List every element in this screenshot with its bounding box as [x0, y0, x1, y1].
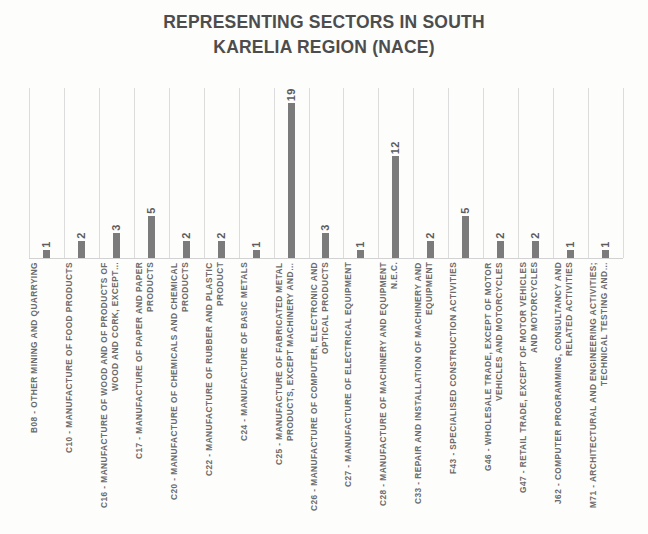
x-axis-label: J62 - COMPUTER PROGRAMMING, CONSULTANCY … [553, 262, 588, 512]
bar-group: 5 [134, 88, 169, 258]
bar-group: 2 [169, 88, 204, 258]
bar[interactable] [357, 250, 364, 259]
bar[interactable] [183, 241, 190, 258]
bar-group: 5 [448, 88, 483, 258]
x-axis-label: G46 - WHOLESALE TRADE, EXCEPT OF MOTOR V… [483, 262, 518, 512]
bar[interactable] [148, 216, 155, 259]
bar[interactable] [497, 241, 504, 258]
bar[interactable] [602, 250, 609, 259]
bar-value-label: 3 [320, 224, 331, 231]
bar[interactable] [392, 156, 399, 258]
bar-value-label: 2 [216, 232, 227, 239]
x-axis-label: C16 - MANUFACTURE OF WOOD AND OF PRODUCT… [99, 262, 134, 512]
bar[interactable] [427, 241, 434, 258]
bar-value-label: 2 [76, 232, 87, 239]
x-axis-label: C22 - MANUFACTURE OF RUBBER AND PLASTIC … [204, 262, 239, 512]
plot-area: 1235221193112252211 [29, 88, 623, 258]
x-axis-label: G47 - RETAIL TRADE, EXCEPT OF MOTOR VEHI… [518, 262, 553, 512]
x-axis-label: F43 - SPECIALISED CONSTRUCTION ACTIVITIE… [448, 262, 483, 512]
bar-group: 1 [239, 88, 274, 258]
bar-group: 2 [413, 88, 448, 258]
x-axis-label: C33 - REPAIR AND INSTALLATION OF MACHINE… [413, 262, 448, 512]
bar-value-label: 1 [600, 241, 611, 248]
x-axis-label: B08 - OTHER MINING AND QUARRYING [29, 262, 64, 512]
bar-value-label: 3 [111, 224, 122, 231]
bar-group: 1 [29, 88, 64, 258]
bar-group: 12 [378, 88, 413, 258]
bar-value-label: 1 [251, 241, 262, 248]
bar-group: 2 [64, 88, 99, 258]
bar-value-label: 1 [41, 241, 52, 248]
axis-baseline [29, 258, 623, 259]
x-axis-label: C27 - MANUFACTURE OF ELECTRICAL EQUIPMEN… [343, 262, 378, 512]
bar[interactable] [462, 216, 469, 259]
chart-title-line-1: REPRESENTING SECTORS IN SOUTH [0, 10, 648, 35]
bar[interactable] [113, 233, 120, 259]
bar-value-label: 2 [495, 232, 506, 239]
bar-group: 3 [99, 88, 134, 258]
x-axis-label: M71 - ARCHITECTURAL AND ENGINEERING ACTI… [588, 262, 623, 512]
bar-group: 3 [309, 88, 344, 258]
x-axis-label: C25 - MANUFACTURE OF FABRICATED METAL PR… [274, 262, 309, 512]
bar-chart-figure: REPRESENTING SECTORS IN SOUTH KARELIA RE… [0, 0, 648, 534]
bar-value-label: 2 [425, 232, 436, 239]
bar-value-label: 5 [146, 207, 157, 214]
bar-group: 1 [343, 88, 378, 258]
x-axis-label: C17 - MANUFACTURE OF PAPER AND PAPER PRO… [134, 262, 169, 512]
bar[interactable] [288, 103, 295, 258]
bar[interactable] [567, 250, 574, 259]
bar-value-label: 2 [530, 232, 541, 239]
bar[interactable] [322, 233, 329, 259]
bar-value-label: 1 [565, 241, 576, 248]
bar[interactable] [43, 250, 50, 259]
x-axis-label: C20 - MANUFACTURE OF CHEMICALS AND CHEMI… [169, 262, 204, 512]
bar-group: 2 [204, 88, 239, 258]
bar-value-label: 5 [460, 207, 471, 214]
bar[interactable] [253, 250, 260, 259]
bar-group: 1 [588, 88, 623, 258]
x-axis-label: C28 - MANUFACTURE OF MACHINERY AND EQUIP… [378, 262, 413, 512]
bar[interactable] [532, 241, 539, 258]
bar-value-label: 1 [355, 241, 366, 248]
bar-value-label: 12 [390, 141, 401, 154]
grid-line [623, 88, 624, 258]
chart-title: REPRESENTING SECTORS IN SOUTH KARELIA RE… [0, 10, 648, 60]
bar-group: 1 [553, 88, 588, 258]
bar-value-label: 2 [181, 232, 192, 239]
x-axis-label: C10 - MANUFACTURE OF FOOD PRODUCTS [64, 262, 99, 512]
bar[interactable] [78, 241, 85, 258]
bar-group: 2 [483, 88, 518, 258]
bar-value-label: 19 [286, 88, 297, 101]
bar[interactable] [218, 241, 225, 258]
x-axis-label: C26 - MANUFACTURE OF COMPUTER, ELECTRONI… [309, 262, 344, 512]
x-axis-label: C24 - MANUFACTURE OF BASIC METALS [239, 262, 274, 512]
bar-group: 19 [274, 88, 309, 258]
bar-group: 2 [518, 88, 553, 258]
chart-title-line-2: KARELIA REGION (NACE) [0, 35, 648, 60]
x-axis-label-group: B08 - OTHER MINING AND QUARRYINGC10 - MA… [29, 262, 623, 517]
